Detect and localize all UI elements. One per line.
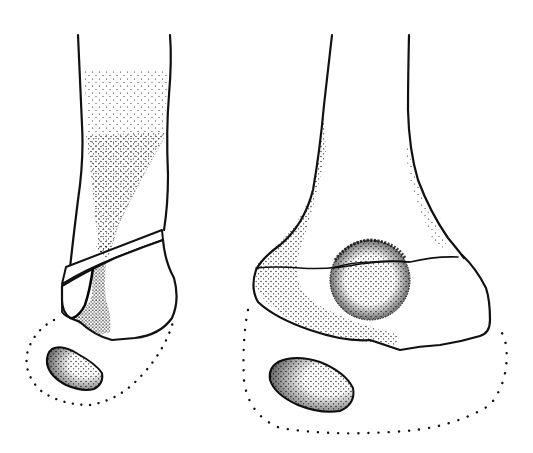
- bone-shaft-right-edge: [408, 35, 464, 258]
- round-lesion: [330, 240, 410, 320]
- anatomical-figure: [0, 0, 533, 453]
- ossicle: [270, 358, 354, 412]
- bone-shaft-left-edge: [70, 35, 83, 268]
- left-view: [27, 35, 177, 405]
- ossicle: [47, 347, 102, 390]
- bone-shaft-right-edge: [164, 35, 171, 230]
- right-view: [244, 35, 507, 433]
